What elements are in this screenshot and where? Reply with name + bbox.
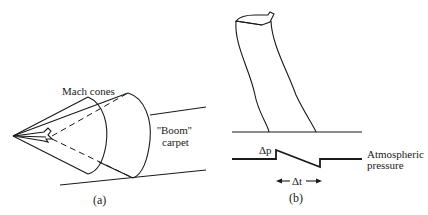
panel-a-caption: (a) [93,193,106,207]
cone2-upper-hidden [52,93,128,136]
shock-rear-curve [271,21,316,132]
shock-front-curve [236,21,269,132]
sonic-boom-diagram: Mach cones ''Boom'' carpet (a) Δp Δt Atm… [0,0,428,215]
aircraft-icon-b [236,12,274,25]
panel-b-caption: (b) [289,191,303,205]
pressure-n-wave [232,150,362,167]
cone2-upper-edge [13,93,128,136]
boom-label: ''Boom'' [157,124,192,136]
carpet-label: carpet [162,136,189,148]
mach-cone-2 [13,93,150,178]
cone2-rim [128,93,150,178]
carpet-upper-boundary [150,107,206,115]
delta-p-label: Δp [259,144,272,156]
cone1-rim [88,97,107,174]
pressure-label: pressure [367,159,404,171]
panel-b: Δp Δt Atmospheric pressure (b) [232,12,424,205]
cone1-lower-edge [13,136,88,174]
mach-cones-label: Mach cones [62,85,115,97]
mach-cone-1 [13,97,107,174]
panel-a: Mach cones ''Boom'' carpet (a) [13,85,206,207]
carpet-lower-boundary [60,170,206,185]
cone2-lower-edge [99,162,133,178]
delta-t-label: Δt [292,175,302,187]
